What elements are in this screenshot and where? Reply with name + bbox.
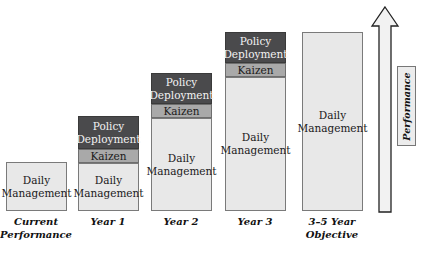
performance-axis-label: Performance bbox=[401, 72, 412, 140]
year2-daily-management-box: Daily Management bbox=[151, 118, 212, 211]
year3-kaizen-box: Kaizen bbox=[225, 63, 286, 77]
year2-kaizen-box: Kaizen bbox=[151, 104, 212, 118]
performance-axis-label-box: Performance bbox=[397, 66, 416, 146]
objective-label: 3–5 Year Objective bbox=[296, 215, 368, 241]
objective-daily-management-box: Daily Management bbox=[302, 32, 363, 211]
year3-policy-deployment-box: Policy Deployment bbox=[225, 32, 286, 63]
year1-daily-management-box: Daily Management bbox=[78, 163, 139, 211]
year1-label: Year 1 bbox=[72, 215, 144, 228]
year3-label: Year 3 bbox=[219, 215, 291, 228]
current-performance-label: Current Performance bbox=[0, 215, 72, 241]
up-arrow-icon bbox=[370, 5, 400, 215]
year1-policy-deployment-box: Policy Deployment bbox=[78, 116, 139, 149]
year1-kaizen-box: Kaizen bbox=[78, 149, 139, 163]
year2-label: Year 2 bbox=[145, 215, 217, 228]
current-daily-text: Daily Management bbox=[1, 174, 71, 200]
year2-policy-deployment-box: Policy Deployment bbox=[151, 73, 212, 104]
year3-daily-management-box: Daily Management bbox=[225, 77, 286, 211]
current-daily-management-box: Daily Management bbox=[6, 162, 67, 211]
